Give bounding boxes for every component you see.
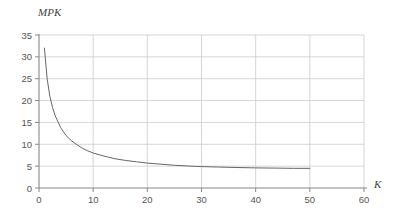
x-axis-tick-label: 60	[359, 194, 370, 205]
chart-canvas: 051015202530350102030405060 MPK K	[0, 0, 394, 224]
x-axis-tick-label: 0	[36, 194, 41, 205]
y-axis-title: MPK	[37, 6, 62, 18]
axis-ticks	[35, 35, 364, 192]
axis-tick-labels: 051015202530350102030405060	[21, 30, 369, 206]
mpk-curve	[44, 48, 309, 168]
x-axis-title: K	[373, 178, 382, 190]
gridlines	[39, 35, 364, 188]
y-axis-tick-label: 10	[21, 139, 32, 150]
x-axis-tick-label: 20	[142, 194, 153, 205]
x-axis-tick-label: 50	[305, 194, 316, 205]
x-axis-tick-label: 30	[196, 194, 207, 205]
y-axis-tick-label: 20	[21, 95, 32, 106]
x-axis-tick-label: 10	[88, 194, 99, 205]
y-axis-tick-label: 5	[27, 161, 32, 172]
x-axis-tick-label: 40	[250, 194, 261, 205]
y-axis-tick-label: 25	[21, 73, 32, 84]
mpk-chart: 051015202530350102030405060 MPK K	[0, 0, 394, 224]
y-axis-tick-label: 35	[21, 30, 32, 41]
y-axis-tick-label: 15	[21, 117, 32, 128]
series-line-MPK	[44, 48, 309, 168]
y-axis-tick-label: 0	[27, 183, 32, 194]
y-axis-tick-label: 30	[21, 51, 32, 62]
